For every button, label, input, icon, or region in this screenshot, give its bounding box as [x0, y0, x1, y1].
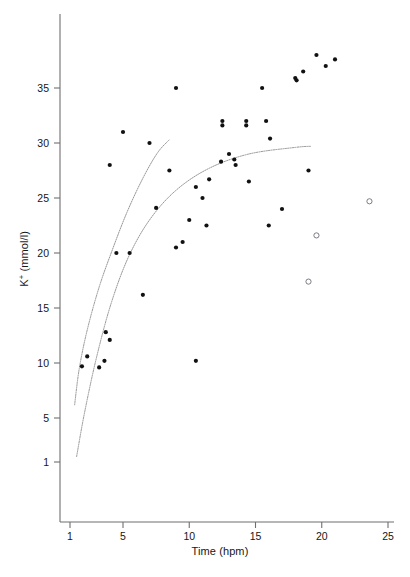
- y-tick-label: 25: [37, 192, 49, 204]
- y-tick-label: 30: [37, 137, 49, 149]
- filled-data-point: [204, 223, 208, 227]
- y-tick-label: 10: [37, 357, 49, 369]
- data-points-group: [80, 53, 372, 370]
- filled-data-point: [114, 251, 118, 255]
- filled-data-point: [220, 123, 224, 127]
- filled-data-point: [301, 69, 305, 73]
- filled-data-point: [108, 338, 112, 342]
- filled-data-point: [294, 78, 298, 82]
- filled-data-point: [167, 168, 171, 172]
- x-tick-label: 5: [120, 530, 126, 542]
- filled-data-point: [234, 163, 238, 167]
- filled-data-point: [314, 53, 318, 57]
- fitted-curves-group: [75, 140, 312, 457]
- filled-data-point: [80, 364, 84, 368]
- filled-data-point: [141, 293, 145, 297]
- filled-data-point: [174, 86, 178, 90]
- scatter-plot-figure: 15101520253035 1510152025 K+ (mmol/l) Ti…: [0, 0, 410, 577]
- filled-data-point: [108, 163, 112, 167]
- y-tick-label: 35: [37, 82, 49, 94]
- filled-data-point: [187, 218, 191, 222]
- x-tick-label: 20: [316, 530, 328, 542]
- filled-data-point: [244, 119, 248, 123]
- open-data-point: [314, 233, 319, 238]
- filled-data-point: [227, 152, 231, 156]
- superscript-plus: +: [16, 275, 25, 279]
- filled-data-point: [128, 251, 132, 255]
- y-tick-label: 15: [37, 302, 49, 314]
- filled-data-point: [219, 160, 223, 164]
- plot-canvas: 15101520253035 1510152025: [0, 0, 410, 577]
- filled-data-point: [85, 354, 89, 358]
- y-tick-label: 20: [37, 247, 49, 259]
- filled-data-point: [260, 86, 264, 90]
- filled-data-point: [194, 359, 198, 363]
- filled-data-point: [97, 365, 101, 369]
- x-tick-label: 15: [250, 530, 262, 542]
- filled-data-point: [200, 196, 204, 200]
- x-tick-label: 25: [382, 530, 394, 542]
- filled-data-point: [268, 137, 272, 141]
- y-axis-title-text: K+ (mmol/l): [18, 231, 30, 287]
- open-data-point: [306, 279, 311, 284]
- filled-data-point: [194, 185, 198, 189]
- filled-data-point: [324, 64, 328, 68]
- axes-group: [60, 14, 394, 522]
- filled-data-point: [264, 119, 268, 123]
- filled-data-point: [147, 141, 151, 145]
- y-tick-label: 5: [43, 412, 49, 424]
- filled-data-point: [154, 206, 158, 210]
- y-tick-group: 15101520253035: [37, 82, 60, 468]
- filled-data-point: [121, 130, 125, 134]
- filled-data-point: [247, 179, 251, 183]
- filled-data-point: [244, 123, 248, 127]
- filled-data-point: [333, 57, 337, 61]
- x-tick-group: 1510152025: [67, 522, 394, 542]
- filled-data-point: [306, 168, 310, 172]
- x-tick-label: 1: [67, 530, 73, 542]
- filled-data-point: [207, 177, 211, 181]
- open-data-point: [367, 199, 372, 204]
- filled-data-point: [102, 359, 106, 363]
- y-tick-label: 1: [43, 456, 49, 468]
- filled-data-point: [220, 119, 224, 123]
- filled-data-point: [280, 207, 284, 211]
- filled-data-point: [174, 245, 178, 249]
- x-axis-title: Time (hpm): [130, 545, 310, 557]
- fitted-curve: [77, 146, 312, 456]
- y-axis-title: K+ (mmol/l): [16, 204, 30, 314]
- filled-data-point: [267, 223, 271, 227]
- x-tick-label: 10: [183, 530, 195, 542]
- filled-data-point: [232, 157, 236, 161]
- filled-data-point: [181, 240, 185, 244]
- filled-data-point: [104, 330, 108, 334]
